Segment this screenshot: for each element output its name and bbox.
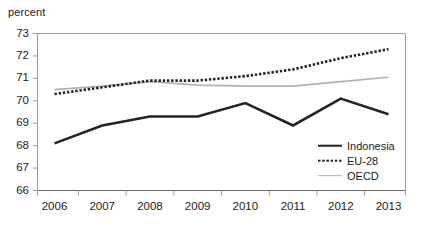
x-tick-label: 2012 (318, 200, 364, 212)
legend-item-label: Indonesia (347, 140, 395, 152)
legend-item-indonesia[interactable]: Indonesia (318, 138, 402, 153)
legend-swatch-icon (318, 141, 342, 151)
y-tick-label: 69 (5, 117, 29, 128)
y-tick-label: 66 (5, 185, 29, 196)
line-chart: percent 6667686970717273 200620072008200… (0, 0, 422, 230)
legend-swatch-icon (318, 156, 342, 166)
y-tick-label: 73 (5, 28, 29, 39)
legend-swatch-icon (318, 171, 342, 181)
legend-item-label: OECD (347, 170, 379, 182)
y-tick-label: 67 (5, 162, 29, 173)
x-tick-label: 2007 (79, 200, 125, 212)
legend-item-eu-28[interactable]: EU-28 (318, 153, 402, 168)
y-tick-label: 68 (5, 140, 29, 151)
x-tick-label: 2009 (175, 200, 221, 212)
y-axis-ticks (33, 34, 38, 191)
plot-area (0, 0, 422, 230)
y-tick-label: 71 (5, 72, 29, 83)
series-line-eu-28 (55, 49, 389, 94)
y-tick-label: 70 (5, 95, 29, 106)
series-line-indonesia (55, 99, 389, 144)
x-tick-label: 2006 (32, 200, 78, 212)
x-tick-label: 2008 (127, 200, 173, 212)
x-tick-label: 2010 (222, 200, 268, 212)
x-tick-label: 2013 (366, 200, 412, 212)
legend-item-label: EU-28 (347, 155, 378, 167)
chart-legend: IndonesiaEU-28OECD (318, 138, 402, 183)
x-tick-label: 2011 (270, 200, 316, 212)
series-layer (55, 49, 389, 143)
x-axis-ticks (38, 191, 406, 196)
legend-item-oecd[interactable]: OECD (318, 168, 402, 183)
y-tick-label: 72 (5, 50, 29, 61)
